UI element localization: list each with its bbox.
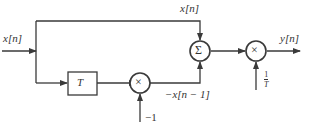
input-label: x[n] (3, 32, 22, 44)
gain-label: −1 (145, 111, 157, 123)
scale-den: T (264, 80, 268, 89)
top-branch-line (36, 21, 200, 40)
multiplier-1-symbol: × (135, 75, 142, 90)
summer-symbol: Σ (195, 43, 202, 58)
multiplier-2-symbol: × (251, 43, 258, 58)
delayed-label: −x[n − 1] (165, 88, 210, 100)
scale-num: 1 (264, 70, 268, 80)
diagram-canvas (0, 0, 315, 134)
scale-label: 1T (264, 70, 268, 89)
mult-to-sum-arrow (150, 62, 200, 83)
delay-label: T (77, 76, 83, 88)
output-label: y[n] (280, 32, 299, 44)
top-branch-label: x[n] (180, 2, 199, 14)
